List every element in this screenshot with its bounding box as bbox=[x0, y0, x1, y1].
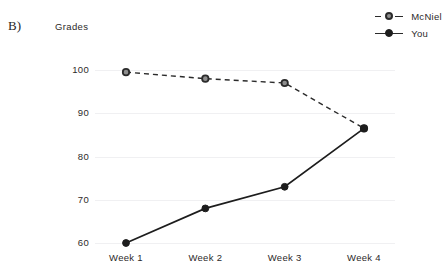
series-line-mcniel bbox=[126, 72, 364, 128]
data-point-you bbox=[202, 205, 209, 212]
data-point-mcniel bbox=[123, 69, 129, 75]
series-line-you bbox=[126, 128, 364, 243]
chart-plot-area: 60708090100 Week 1Week 2Week 3Week 4 bbox=[0, 0, 448, 277]
data-series-layer bbox=[0, 0, 448, 277]
data-point-you bbox=[123, 240, 130, 247]
data-point-mcniel bbox=[281, 80, 287, 86]
data-point-you bbox=[281, 183, 288, 190]
data-point-you bbox=[361, 125, 368, 132]
data-point-mcniel bbox=[202, 75, 208, 81]
